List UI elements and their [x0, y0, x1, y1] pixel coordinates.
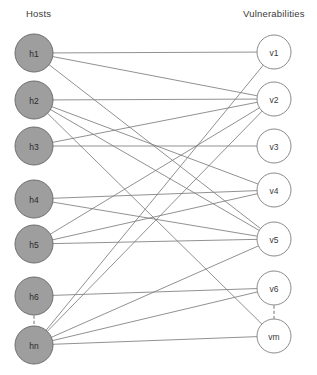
edge-h2-v4	[51, 106, 259, 184]
host-node-h1[interactable]: h1	[15, 34, 53, 72]
vulnerability-node-v1[interactable]: v1	[257, 35, 291, 69]
vulnerability-label-v5: v5	[270, 235, 279, 245]
vulnerability-label-vm: vm	[268, 332, 279, 342]
edge-hn-v5	[50, 245, 259, 337]
vulnerability-label-v4: v4	[270, 186, 279, 196]
host-label-h3: h3	[29, 142, 39, 152]
host-node-h6[interactable]: h6	[15, 277, 53, 315]
edge-h5-v2	[49, 107, 260, 234]
edge-h1-v1	[52, 52, 258, 53]
vulnerability-node-v3[interactable]: v3	[257, 129, 291, 163]
host-node-h4[interactable]: h4	[15, 180, 53, 218]
host-node-h5[interactable]: h5	[15, 225, 53, 263]
host-label-h1: h1	[29, 49, 39, 59]
vulnerability-node-v2[interactable]: v2	[257, 82, 291, 116]
vulnerability-label-v1: v1	[270, 48, 279, 58]
edge-h1-v5	[48, 64, 261, 229]
diagram-canvas: Hosts Vulnerabilities h1h2h3h4h5h6hnv1v2…	[0, 0, 317, 375]
vulnerability-node-v6[interactable]: v6	[257, 271, 291, 305]
vulnerability-node-vm[interactable]: vm	[257, 319, 291, 353]
vulnerability-node-v5[interactable]: v5	[257, 222, 291, 256]
edge-hn-v6	[52, 292, 259, 341]
edge-layer	[45, 52, 263, 344]
edge-h1-v2	[52, 56, 259, 96]
edge-hn-vm	[52, 337, 258, 345]
vulnerability-label-v3: v3	[270, 142, 279, 152]
host-label-h2: h2	[29, 96, 39, 106]
host-label-h4: h4	[29, 195, 39, 205]
bipartite-graph: h1h2h3h4h5h6hnv1v2v3v4v5v6vm	[0, 0, 317, 375]
edge-h2-v5	[50, 109, 261, 231]
edge-h3-v2	[52, 102, 259, 142]
host-node-hn[interactable]: hn	[15, 326, 53, 364]
host-label-h6: h6	[29, 292, 39, 302]
ellipsis-layer	[34, 306, 274, 326]
node-layer: h1h2h3h4h5h6hnv1v2v3v4v5v6vm	[15, 34, 291, 364]
host-label-hn: hn	[29, 341, 39, 351]
edge-h4-v5	[52, 202, 258, 236]
vulnerability-node-v4[interactable]: v4	[257, 173, 291, 207]
edge-h5-v5	[52, 239, 258, 243]
host-node-h2[interactable]: h2	[15, 81, 53, 119]
edge-h2-v2	[52, 99, 258, 100]
vulnerability-label-v6: v6	[270, 284, 279, 294]
host-label-h5: h5	[29, 240, 39, 250]
edge-h5-v4	[52, 194, 259, 241]
vulnerability-label-v2: v2	[270, 95, 279, 105]
host-node-h3[interactable]: h3	[15, 127, 53, 165]
